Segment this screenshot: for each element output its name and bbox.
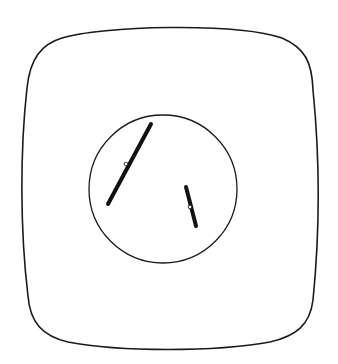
cell-diagram — [0, 0, 338, 364]
chromosome-short — [186, 187, 196, 226]
chromosome-long — [108, 124, 151, 204]
nucleus — [89, 115, 237, 263]
cell-membrane — [22, 27, 318, 349]
centromere — [124, 162, 128, 166]
centromere — [188, 205, 192, 209]
